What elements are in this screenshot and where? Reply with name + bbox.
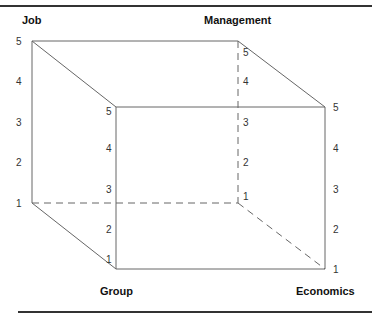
job-tick-2: 2 [16, 158, 22, 168]
diag-bottom-right [238, 203, 325, 269]
management-tick-4: 4 [243, 77, 249, 87]
axis-title-group: Group [100, 285, 133, 297]
management-tick-2: 2 [243, 158, 249, 168]
cube-diagram [0, 0, 372, 316]
job-tick-3: 3 [16, 118, 22, 128]
economics-tick-3: 3 [333, 185, 339, 195]
job-tick-1: 1 [16, 199, 22, 209]
group-tick-3: 3 [106, 185, 112, 195]
group-tick-2: 2 [106, 225, 112, 235]
axis-title-job: Job [22, 14, 42, 26]
economics-tick-5: 5 [333, 103, 339, 113]
diag-top-left [32, 41, 116, 107]
diag-bottom-left [32, 203, 116, 269]
economics-tick-4: 4 [333, 144, 339, 154]
management-tick-1: 1 [243, 192, 249, 202]
economics-tick-1: 1 [333, 265, 339, 275]
group-tick-1: 1 [106, 255, 112, 265]
axis-title-economics: Economics [296, 285, 355, 297]
axis-title-management: Management [204, 14, 271, 26]
management-tick-5: 5 [243, 48, 249, 58]
economics-tick-2: 2 [333, 225, 339, 235]
group-tick-4: 4 [106, 144, 112, 154]
group-tick-5: 5 [106, 107, 112, 117]
management-tick-3: 3 [243, 118, 249, 128]
job-tick-5: 5 [16, 37, 22, 47]
job-tick-4: 4 [16, 77, 22, 87]
diag-top-right [238, 41, 325, 107]
